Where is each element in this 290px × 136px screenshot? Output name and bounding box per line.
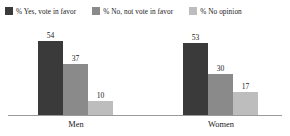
bar-rect-women-no: [208, 74, 233, 115]
legend-swatch-no-icon: [92, 7, 100, 15]
chart-legend: % Yes, vote in favor % No, not vote in f…: [0, 3, 290, 19]
category-label-men: Men: [38, 119, 114, 131]
bar-group-men: 54 37 10: [38, 22, 114, 115]
plot-area: 54 37 10 53 30 17: [0, 22, 290, 115]
bar-value-women-yes: 53: [183, 33, 208, 42]
legend-label-yes: % Yes, vote in favor: [16, 7, 76, 16]
bar-rect-women-no-opinion: [233, 92, 258, 115]
legend-label-no-opinion: % No opinion: [200, 7, 242, 16]
legend-label-no: % No, not vote in favor: [103, 7, 173, 16]
bar-value-men-yes: 54: [38, 31, 63, 40]
axis-baseline: [8, 115, 282, 116]
bar-value-men-no: 37: [63, 54, 88, 63]
bar-rect-men-no: [63, 64, 88, 115]
legend-swatch-yes-icon: [5, 7, 13, 15]
bar-value-women-no: 30: [208, 64, 233, 73]
legend-item-yes[interactable]: % Yes, vote in favor: [5, 7, 76, 16]
category-label-women: Women: [183, 119, 259, 131]
bar-rect-men-yes: [38, 41, 63, 115]
legend-swatch-no-opinion-icon: [189, 7, 197, 15]
legend-item-no[interactable]: % No, not vote in favor: [92, 7, 173, 16]
bar-group-women: 53 30 17: [183, 22, 259, 115]
legend-item-no-opinion[interactable]: % No opinion: [189, 7, 242, 16]
bar-chart: % Yes, vote in favor % No, not vote in f…: [0, 0, 290, 136]
bar-rect-women-yes: [183, 43, 208, 115]
bar-value-men-no-opinion: 10: [88, 91, 113, 100]
bar-value-women-no-opinion: 17: [233, 82, 258, 91]
bar-rect-men-no-opinion: [88, 101, 113, 115]
